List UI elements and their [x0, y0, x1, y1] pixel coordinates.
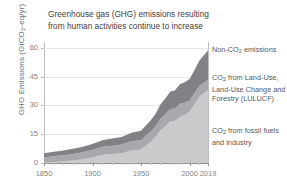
x-tick-minor [122, 163, 123, 165]
plot-right-border [208, 42, 209, 164]
x-tick-mark [190, 163, 191, 166]
legend-item-non-co2: Non-CO2 emissions [212, 45, 286, 57]
x-tick-label: 1950 [133, 169, 150, 178]
stacked-area-container [44, 42, 208, 163]
plot-area [44, 42, 208, 163]
x-tick-label: 2000 [181, 169, 198, 178]
x-tick-label: 1900 [84, 169, 101, 178]
y-tick-label: 60 [14, 43, 38, 52]
x-tick-minor [131, 163, 132, 165]
x-tick-minor [63, 163, 64, 165]
y-tick-label: 15 [14, 129, 38, 138]
x-axis-line [44, 163, 209, 164]
stacked-area-svg [44, 42, 208, 163]
legend-item-fossil-fuels: CO2 from fossil fuels and industry [212, 126, 286, 147]
x-tick-minor [160, 163, 161, 165]
x-tick-mark [208, 163, 209, 166]
x-tick-minor [199, 163, 200, 165]
ghg-emissions-chart-figure: Greenhouse gas (GHG) emissions resulting… [0, 0, 287, 192]
x-tick-mark [93, 163, 94, 166]
y-tick-label: 45 [14, 72, 38, 81]
y-tick-label: 0 [14, 158, 38, 167]
x-tick-minor [112, 163, 113, 165]
x-tick-mark [141, 163, 142, 166]
x-tick-minor [54, 163, 55, 165]
legend-item-lulucf: CO2 from Land-Use, Land-Use Change and F… [212, 73, 286, 104]
x-tick-minor [151, 163, 152, 165]
x-tick-minor [83, 163, 84, 165]
x-tick-mark [44, 163, 45, 166]
chart-title: Greenhouse gas (GHG) emissions resulting… [48, 9, 216, 32]
x-tick-minor [170, 163, 171, 165]
x-tick-minor [102, 163, 103, 165]
x-tick-label: 1850 [36, 169, 53, 178]
x-tick-minor [73, 163, 74, 165]
x-tick-label: 2019 [200, 169, 217, 178]
y-tick-label: 30 [14, 100, 38, 109]
x-tick-minor [180, 163, 181, 165]
